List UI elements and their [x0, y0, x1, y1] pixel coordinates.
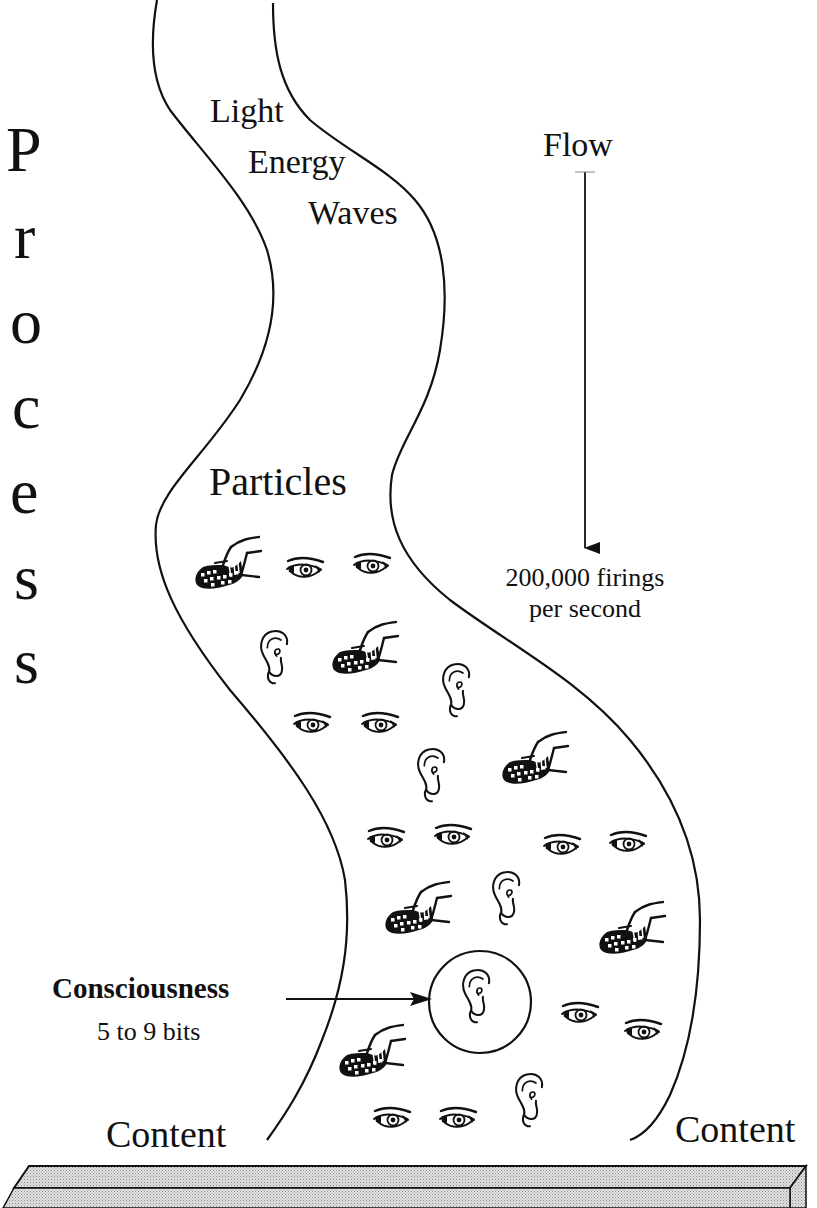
- hand-icon: [385, 882, 451, 934]
- consciousness-label: Consciousness: [52, 972, 229, 1005]
- eye-icon: [368, 828, 404, 847]
- eye-icon: [294, 713, 330, 732]
- label-energy: Energy: [248, 145, 346, 179]
- process-letter-r: r: [14, 205, 35, 269]
- content-right-label: Content: [675, 1110, 795, 1148]
- process-letter-o: o: [10, 290, 42, 354]
- flow-label: Flow: [543, 128, 613, 162]
- ground-slab: [3, 1166, 806, 1208]
- eye-icon: [562, 1003, 598, 1022]
- hand-icon: [599, 902, 665, 954]
- eye-icon: [374, 1108, 410, 1127]
- hand-icon: [195, 537, 261, 589]
- process-letter-c: c: [12, 375, 40, 439]
- process-letter-p: P: [6, 118, 42, 182]
- eye-icon: [625, 1020, 661, 1039]
- eye-icon: [435, 825, 471, 844]
- eye-icon: [354, 554, 390, 573]
- ear-icon: [443, 664, 469, 716]
- flow-rate-line1: 200,000 firings: [495, 562, 675, 593]
- flow-rate-line2: per second: [495, 593, 675, 624]
- label-light: Light: [210, 94, 284, 128]
- ear-icon: [516, 1074, 542, 1126]
- eye-icon: [544, 835, 580, 854]
- flow-rate: 200,000 firings per second: [495, 562, 675, 624]
- hand-icon: [502, 732, 568, 784]
- particles-layer: [195, 537, 665, 1127]
- consciousness-focus-circle: [429, 951, 531, 1053]
- label-particles: Particles: [209, 462, 347, 502]
- process-letter-s2: s: [14, 630, 39, 694]
- ear-icon: [418, 749, 444, 801]
- eye-icon: [610, 832, 646, 851]
- process-letter-e: e: [10, 460, 38, 524]
- eye-icon: [440, 1108, 476, 1127]
- consciousness-capacity: 5 to 9 bits: [97, 1017, 200, 1047]
- process-letter-s1: s: [14, 546, 39, 610]
- label-waves: Waves: [308, 196, 398, 230]
- eye-icon: [287, 558, 323, 577]
- ear-icon: [261, 631, 287, 683]
- hand-icon: [339, 1025, 405, 1077]
- eye-icon: [362, 713, 398, 732]
- content-left-label: Content: [106, 1115, 226, 1153]
- ear-icon: [493, 872, 519, 924]
- hand-icon: [332, 622, 398, 674]
- ear-icon: [463, 970, 489, 1022]
